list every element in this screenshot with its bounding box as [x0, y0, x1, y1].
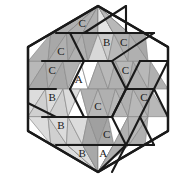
hexagon-tiling-canvas: CCBCCACBCCBCBA	[0, 0, 196, 179]
cell-label: C	[140, 91, 147, 103]
cell-label: B	[103, 36, 110, 48]
triangular-tiling-figure: CCBCCACBCCBCBA	[0, 0, 196, 179]
cell-label: C	[79, 17, 86, 29]
cell-label: C	[122, 64, 129, 76]
cell-label: C	[57, 45, 64, 57]
cell-label: B	[48, 91, 55, 103]
cell-label: B	[57, 119, 64, 131]
cell-label: C	[103, 128, 110, 140]
cell-label: B	[79, 147, 86, 159]
cell-label: C	[94, 100, 101, 112]
cell-label: A	[75, 73, 83, 85]
cell-label: A	[99, 147, 107, 159]
cell-label: C	[48, 64, 55, 76]
cell-label: C	[120, 36, 127, 48]
